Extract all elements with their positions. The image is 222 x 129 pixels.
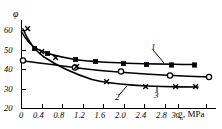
y-axis-label: φ [13, 10, 18, 20]
curve-label-3: 3 [154, 91, 159, 100]
y-tick-label-60: 60 [4, 26, 13, 35]
chart-figure: φ 60 50 40 30 20 0 0.4 0.8 1.2 1.6 2.0 2… [0, 0, 222, 129]
x-tick-label-0-8: 0.8 [54, 111, 65, 120]
x-tick-label-1-2: 1.2 [74, 111, 85, 120]
x-tick-label-1-6: 1.6 [95, 111, 106, 120]
series-3-markers [25, 26, 198, 89]
x-axis-label: σn, MPa [175, 110, 204, 121]
x-tick-label-2-4: 2.4 [136, 111, 147, 120]
x-tick-label-0-4: 0.4 [33, 111, 44, 120]
x-tick-label-2-0: 2.0 [115, 111, 126, 120]
x-axis-ticks [22, 104, 207, 109]
y-tick-label-50: 50 [4, 46, 13, 55]
y-tick-label-40: 40 [4, 65, 13, 74]
curve-label-1: 1 [151, 43, 156, 52]
curve-label-2: 2 [115, 93, 120, 102]
y-axis-ticks [22, 31, 26, 109]
y-tick-label-30: 30 [4, 85, 13, 94]
x-tick-label-0: 0 [19, 111, 23, 120]
y-tick-label-20: 20 [4, 104, 13, 113]
series-3-curve [23, 29, 198, 87]
x-tick-label-2-8: 2.8 [156, 111, 167, 120]
x-axis-units: , MPa [183, 109, 205, 119]
